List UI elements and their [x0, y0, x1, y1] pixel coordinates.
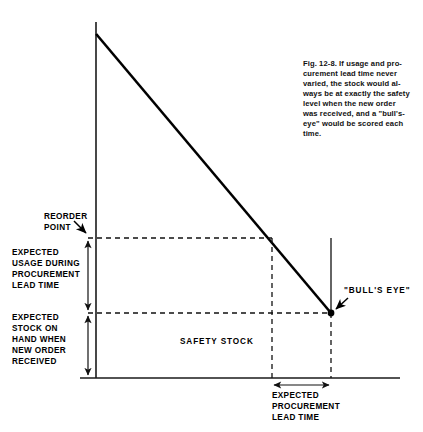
stock-depletion-line — [97, 35, 331, 313]
expected-stock-label-line: EXPECTED — [12, 313, 59, 322]
reorder-point-label: REORDER POINT — [44, 212, 87, 232]
caption-line: varied, the stock would al- — [303, 79, 401, 88]
caption-line: eye" would be scored each — [303, 119, 403, 128]
figure-container: Fig. 12-8. If usage and pro- curement le… — [0, 0, 423, 432]
safety-stock-label: SAFETY STOCK — [180, 337, 254, 346]
expected-usage-label-line: EXPECTED — [12, 248, 59, 257]
expected-lead-time-label-line: PROCUREMENT — [272, 402, 340, 411]
expected-stock-label-line: HAND WHEN — [12, 335, 66, 344]
expected-usage-label-line: LEAD TIME — [12, 281, 59, 290]
caption-line: level when the new order — [303, 99, 396, 108]
figure-caption: Fig. 12-8. If usage and pro- curement le… — [302, 59, 410, 138]
expected-usage-label-line: PROCUREMENT — [12, 270, 80, 279]
expected-stock-label-line: RECEIVED — [12, 357, 57, 366]
level-guides-group — [88, 238, 331, 313]
expected-stock-label-line: STOCK ON — [12, 324, 58, 333]
stock-depletion-line-group — [97, 35, 331, 313]
reorder-point-label-line: POINT — [44, 223, 71, 232]
caption-line: ways be at exactly the safety — [302, 89, 410, 98]
expected-lead-time-label-line: EXPECTED — [272, 391, 319, 400]
caption-line: time. — [303, 129, 321, 138]
caption-line: Fig. 12-8. If usage and pro- — [303, 59, 402, 68]
expected-usage-label: EXPECTED USAGE DURING PROCUREMENT LEAD T… — [12, 248, 80, 290]
bulls-eye-marker — [328, 310, 335, 317]
time-guides-group — [272, 238, 331, 378]
reorder-point-pointer-arrow — [74, 221, 86, 233]
expected-lead-time-label: EXPECTED PROCUREMENT LEAD TIME — [272, 391, 340, 422]
bulls-eye-pointer-arrow — [336, 298, 348, 309]
expected-lead-time-label-line: LEAD TIME — [272, 413, 319, 422]
expected-stock-label: EXPECTED STOCK ON HAND WHEN NEW ORDER RE… — [12, 313, 66, 366]
inventory-depletion-diagram: Fig. 12-8. If usage and pro- curement le… — [0, 0, 423, 432]
bulls-eye-label: "BULL'S EYE" — [344, 286, 410, 295]
caption-line: was received, and a "bull's- — [302, 109, 405, 118]
caption-line: curement lead time never — [303, 69, 397, 78]
reorder-point-label-line: REORDER — [44, 212, 87, 221]
expected-usage-label-line: USAGE DURING — [12, 259, 80, 268]
pointer-lines-group — [74, 221, 348, 309]
expected-stock-label-line: NEW ORDER — [12, 346, 66, 355]
